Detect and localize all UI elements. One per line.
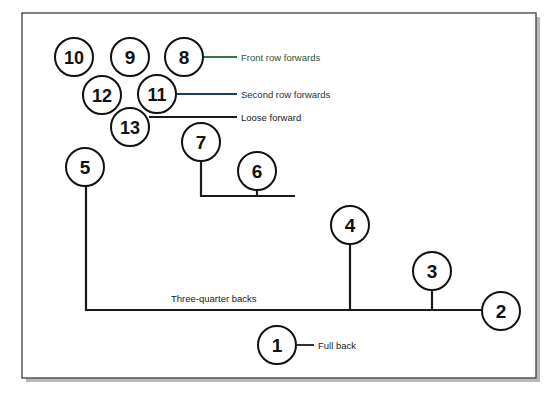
position-number: 13 xyxy=(120,118,140,138)
position-number: 12 xyxy=(92,86,112,106)
position-number: 1 xyxy=(272,335,283,356)
rugby-formation-diagram: 10981211137564321 Front row forwardsSeco… xyxy=(0,0,559,393)
position-number: 3 xyxy=(427,261,438,282)
player-position-9[interactable]: 9 xyxy=(111,38,149,76)
position-number: 6 xyxy=(252,161,263,182)
player-position-5[interactable]: 5 xyxy=(66,148,104,186)
label-second-row-forwards: Second row forwards xyxy=(241,89,330,100)
player-position-1[interactable]: 1 xyxy=(258,326,296,364)
formation-canvas: 10981211137564321 Front row forwardsSeco… xyxy=(0,0,559,393)
player-position-10[interactable]: 10 xyxy=(55,38,93,76)
label-full-back: Full back xyxy=(318,340,356,351)
player-position-4[interactable]: 4 xyxy=(331,206,369,244)
position-number: 2 xyxy=(496,301,507,322)
player-position-2[interactable]: 2 xyxy=(482,292,520,330)
position-number: 10 xyxy=(64,48,84,68)
position-number: 5 xyxy=(80,157,91,178)
position-number: 4 xyxy=(345,215,356,236)
player-position-11[interactable]: 11 xyxy=(138,75,176,113)
player-position-3[interactable]: 3 xyxy=(413,252,451,290)
player-position-8[interactable]: 8 xyxy=(165,38,203,76)
label-three-quarter-backs: Three-quarter backs xyxy=(171,293,257,304)
position-number: 8 xyxy=(179,47,190,68)
position-number: 11 xyxy=(147,85,166,105)
position-number: 9 xyxy=(125,47,136,68)
label-loose-forward: Loose forward xyxy=(241,112,301,123)
player-position-12[interactable]: 12 xyxy=(83,76,121,114)
label-front-row-forwards: Front row forwards xyxy=(241,52,320,63)
player-position-6[interactable]: 6 xyxy=(238,152,276,190)
position-number: 7 xyxy=(196,132,207,153)
player-position-13[interactable]: 13 xyxy=(111,108,149,146)
player-position-7[interactable]: 7 xyxy=(182,123,220,161)
